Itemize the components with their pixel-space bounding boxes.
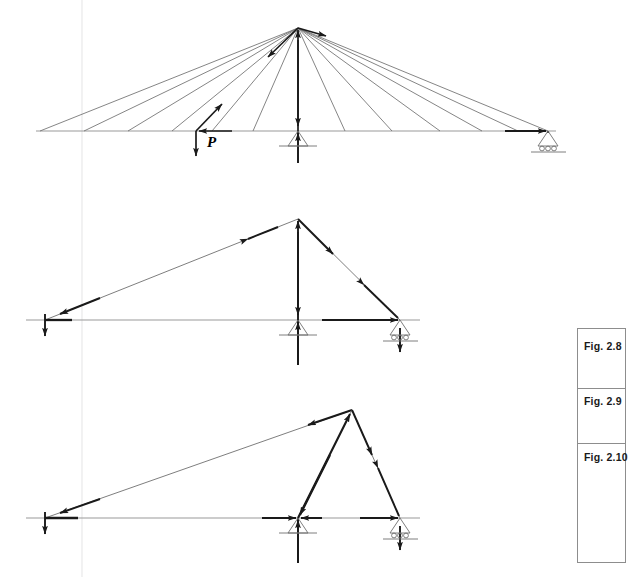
figure-2-10: [26, 410, 420, 563]
caption-fig-2-10: Fig. 2.10: [584, 451, 628, 463]
strut-force-at-roller-3: [378, 468, 399, 516]
load-p-label: P: [207, 134, 216, 151]
strut-force-down-3: [300, 455, 330, 515]
caption-fig-2-8: Fig. 2.8: [584, 340, 622, 352]
caption-box-frame: [578, 329, 626, 563]
strut-force-down-right-3: [352, 410, 372, 455]
stay-cables-right: [298, 28, 548, 131]
stay-cables-left: [40, 28, 298, 131]
strut-force-at-support: [364, 285, 398, 318]
caption-fig-2-9: Fig. 2.9: [584, 395, 622, 407]
apex-force-left: [268, 28, 298, 57]
figure-2-9: [26, 219, 420, 365]
tie-force-toward-apex: [248, 227, 278, 239]
tie-force-toward-left-3: [60, 499, 100, 513]
tie-force-toward-left: [60, 298, 100, 314]
strut-force-down: [298, 219, 333, 254]
figure-2-8: [36, 28, 566, 163]
caption-box: [578, 329, 626, 563]
roller-support: [531, 131, 566, 152]
